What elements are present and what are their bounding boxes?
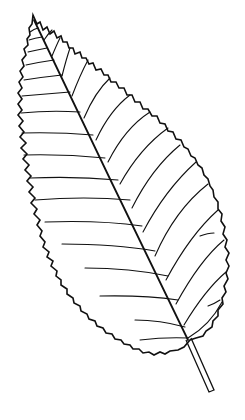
leaf-illustration (0, 0, 245, 420)
petiole (186, 338, 214, 392)
